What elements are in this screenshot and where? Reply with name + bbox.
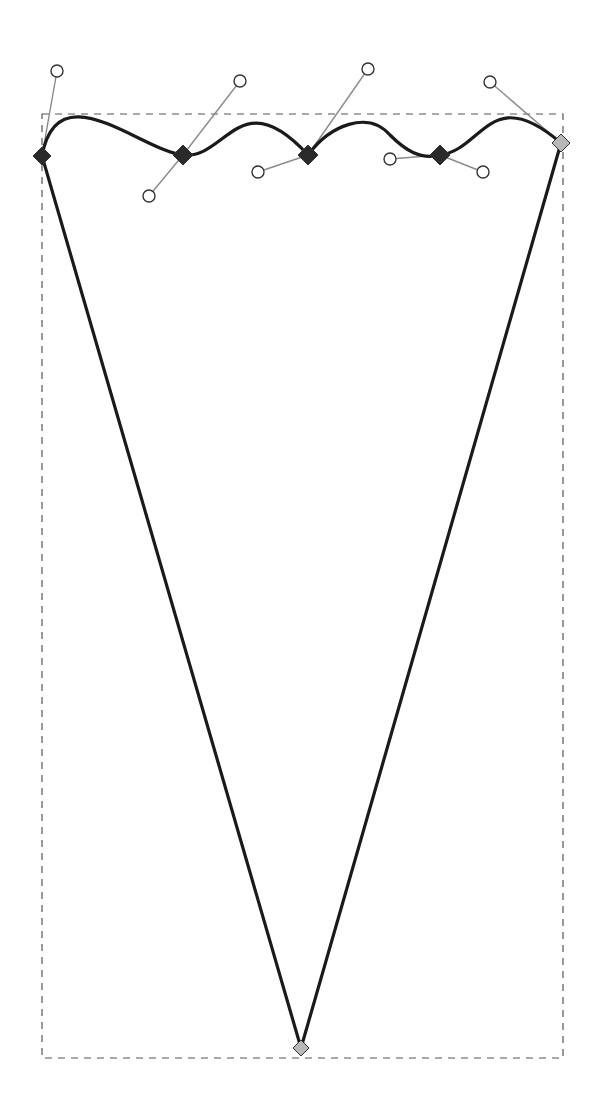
bezier-handle-circle-icon[interactable] bbox=[384, 153, 396, 165]
bezier-handle-circle-icon[interactable] bbox=[143, 190, 155, 202]
bezier-handle-circle-icon[interactable] bbox=[484, 76, 496, 88]
bezier-handle-circle-icon[interactable] bbox=[252, 166, 264, 178]
bezier-handle-circle-icon[interactable] bbox=[234, 75, 246, 87]
bezier-handle-circle-icon[interactable] bbox=[362, 63, 374, 75]
bezier-handle-circle-icon[interactable] bbox=[477, 166, 489, 178]
bezier-handle-circle-icon[interactable] bbox=[51, 65, 63, 77]
canvas-background bbox=[0, 0, 601, 1119]
drawing-canvas[interactable] bbox=[0, 0, 601, 1119]
